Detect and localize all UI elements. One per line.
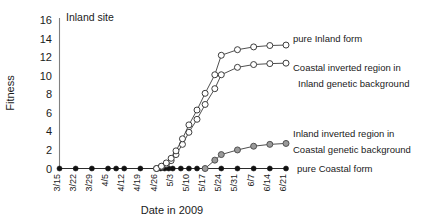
x-tick-label: 4/26: [149, 174, 159, 192]
data-point: [57, 166, 62, 171]
legend-label-pure-coastal: pure Coastal form: [297, 163, 373, 174]
x-tick-label: 4/5: [100, 174, 110, 187]
x-tick-label: 6/14: [262, 174, 272, 192]
y-tick-label: 6: [46, 107, 52, 119]
data-point: [283, 140, 289, 146]
data-point: [106, 166, 111, 171]
data-point: [186, 166, 191, 171]
data-point: [168, 155, 174, 161]
y-tick-label: 10: [40, 70, 52, 82]
x-tick-label: 5/17: [197, 174, 207, 192]
data-point: [178, 166, 183, 171]
data-point: [73, 166, 78, 171]
y-tick-label: 16: [40, 14, 52, 26]
data-point: [267, 61, 273, 67]
data-point: [234, 47, 240, 53]
x-tick-label: 3/29: [84, 174, 94, 192]
x-tick-label: 4/19: [132, 174, 142, 192]
series-3: [57, 166, 289, 171]
y-tick-label: 2: [46, 144, 52, 156]
data-point: [267, 166, 272, 171]
legend-label-inland-inverted-line1: Inland inverted region in: [293, 128, 394, 139]
data-point: [173, 148, 179, 154]
x-tick-label: 5/24: [213, 174, 223, 192]
data-point: [251, 143, 257, 149]
legend-label-coastal-inverted-line2: Inland genetic background: [298, 78, 409, 89]
data-point: [202, 90, 208, 96]
data-point: [234, 147, 240, 153]
y-tick-label: 8: [46, 88, 52, 100]
data-point: [114, 166, 119, 171]
data-point: [194, 116, 200, 122]
y-tick-label: 14: [40, 33, 52, 45]
x-tick-label: 6/21: [278, 174, 288, 192]
y-tick-label: 0: [46, 163, 52, 175]
data-point: [212, 157, 218, 163]
data-point: [267, 141, 273, 147]
y-axis-title: Fitness: [4, 75, 16, 111]
data-point: [195, 166, 200, 171]
fitness-line-chart: 1614121086420 3/153/223/294/54/124/194/2…: [0, 0, 439, 222]
data-point: [218, 152, 224, 158]
data-point: [235, 166, 240, 171]
data-point: [283, 42, 289, 48]
series-group: [57, 42, 289, 171]
legend-label-pure-inland: pure Inland form: [293, 33, 362, 44]
data-point: [212, 72, 218, 78]
data-point: [283, 60, 289, 66]
y-tick-label: 12: [40, 51, 52, 63]
y-tick-labels: 1614121086420: [40, 14, 52, 175]
data-point: [89, 166, 94, 171]
x-tick-label: 3/15: [52, 174, 62, 192]
data-point: [218, 52, 224, 58]
data-point: [163, 160, 169, 166]
data-point: [251, 62, 257, 68]
legend-label-coastal-inverted-line1: Coastal inverted region in: [293, 62, 401, 73]
y-tick-label: 4: [46, 125, 52, 137]
data-point: [170, 166, 175, 171]
plot-title: Inland site: [66, 11, 114, 23]
x-tick-label: 3/22: [68, 174, 78, 192]
data-point: [251, 44, 257, 50]
x-tick-label: 4/12: [116, 174, 126, 192]
data-point: [202, 101, 208, 107]
x-tick-label: 5/10: [181, 174, 191, 192]
data-point: [251, 166, 256, 171]
x-tick-label: 5/3: [165, 174, 175, 187]
data-point: [138, 166, 143, 171]
data-point: [122, 166, 127, 171]
data-point: [219, 166, 224, 171]
series-2: [202, 140, 289, 171]
data-point: [218, 72, 224, 78]
chart-canvas: 1614121086420 3/153/223/294/54/124/194/2…: [0, 0, 439, 222]
x-tick-label: 6/7: [246, 174, 256, 187]
legend-label-inland-inverted-line2: Coastal genetic background: [293, 144, 411, 155]
series-line: [205, 143, 286, 168]
x-tick-label: 5/31: [229, 174, 239, 192]
data-point: [186, 122, 192, 128]
data-point: [202, 166, 208, 172]
x-tick-labels: 3/153/223/294/54/124/194/265/35/105/175/…: [52, 174, 289, 192]
x-axis-title: Date in 2009: [141, 204, 203, 216]
data-point: [179, 136, 185, 142]
data-point: [284, 166, 289, 171]
data-point: [267, 43, 273, 49]
data-point: [234, 64, 240, 70]
data-point: [194, 107, 200, 113]
data-point: [212, 86, 218, 92]
